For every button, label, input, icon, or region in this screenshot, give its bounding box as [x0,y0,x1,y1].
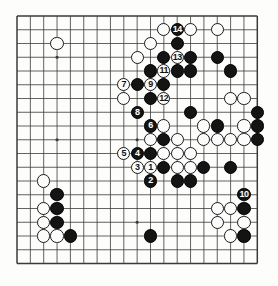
black-stone [171,64,184,77]
move-stone-14: 14 [171,23,184,36]
black-stone [144,229,157,242]
black-stone [171,37,184,50]
black-stone [144,92,157,105]
move-number-label: 7 [122,80,127,89]
white-stone [50,37,63,50]
move-number-label: 3 [135,162,140,171]
move-stone-11: 11 [157,64,170,77]
move-number-label: 13 [173,52,182,61]
black-stone [224,161,237,174]
white-stone [237,216,250,229]
move-number-label: 5 [122,149,127,158]
white-stone [157,119,170,132]
white-stone [37,229,50,242]
move-number-label: 9 [148,80,153,89]
move-number-label: 6 [148,121,153,130]
move-number-label: 11 [160,66,169,75]
white-stone [237,133,250,146]
move-stone-13: 13 [171,51,184,64]
black-stone [131,78,144,91]
black-stone [184,64,197,77]
black-stone [237,202,250,215]
black-stone [211,51,224,64]
black-stone [50,202,63,215]
move-stone-6: 6 [144,119,157,132]
white-stone [171,147,184,160]
move-number-label: 10 [239,190,248,199]
black-stone [224,64,237,77]
move-number-label: 14 [173,25,182,34]
black-stone [50,216,63,229]
go-diagram: 1234567891011121314 [0,0,278,286]
move-number-label: 8 [135,107,140,116]
move-stone-8: 8 [131,106,144,119]
go-board-grid [0,0,278,286]
white-stone [37,174,50,187]
black-stone [211,119,224,132]
white-stone [211,202,224,215]
black-stone [171,174,184,187]
white-stone [184,161,197,174]
black-stone [184,106,197,119]
black-stone [184,174,197,187]
move-number-label: 4 [135,149,140,158]
black-stone [144,64,157,77]
black-stone [64,229,77,242]
black-stone [144,147,157,160]
move-number-label: 1 [148,162,153,171]
move-stone-4: 4 [131,147,144,160]
move-stone-10: 10 [237,188,250,201]
white-stone [144,37,157,50]
move-number-label: 12 [159,94,168,103]
white-stone [237,119,250,132]
move-number-label: 2 [148,176,153,185]
white-stone [197,119,210,132]
white-stone [237,92,250,105]
white-stone [211,216,224,229]
white-stone [171,161,184,174]
black-stone [237,229,250,242]
move-stone-1: 1 [144,161,157,174]
black-stone [50,188,63,201]
white-stone [131,51,144,64]
black-stone [251,106,264,119]
move-stone-3: 3 [131,161,144,174]
white-stone [37,216,50,229]
black-stone [251,119,264,132]
white-stone [224,229,237,242]
white-stone [171,133,184,146]
black-stone [184,51,197,64]
move-stone-2: 2 [144,174,157,187]
white-stone [50,229,63,242]
